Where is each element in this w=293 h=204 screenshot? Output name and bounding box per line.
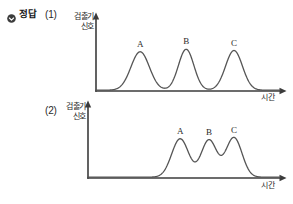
check-circle-icon	[7, 9, 16, 18]
chromatogram-trace-2	[88, 137, 280, 177]
y-axis-arrowhead-1	[93, 13, 99, 20]
y-axis-arrowhead-2	[85, 101, 91, 108]
peak-label-1-c: C	[231, 38, 237, 48]
answer-header: 정답	[7, 9, 36, 19]
peak-label-1-a: A	[137, 39, 144, 49]
peak-label-2-c: C	[231, 125, 237, 135]
chromatogram-chart-1: A B C	[88, 12, 288, 96]
x-axis-arrowhead-1	[280, 88, 287, 94]
peak-label-2-b: B	[206, 127, 212, 137]
peak-label-2-a: A	[177, 126, 184, 136]
answer-label: 정답	[19, 9, 36, 19]
x-axis-label-2: 시간	[261, 181, 274, 190]
figure-index-1: (1)	[45, 10, 57, 20]
chromatogram-trace-1	[96, 49, 280, 90]
chromatogram-chart-2: A B C	[80, 100, 288, 184]
figure-page: 정답 (1) 검출기 신호 A B C 시간 (2) 검출기 신호 A	[0, 0, 293, 204]
peak-label-1-b: B	[183, 36, 189, 46]
x-axis-arrowhead-2	[280, 175, 287, 181]
